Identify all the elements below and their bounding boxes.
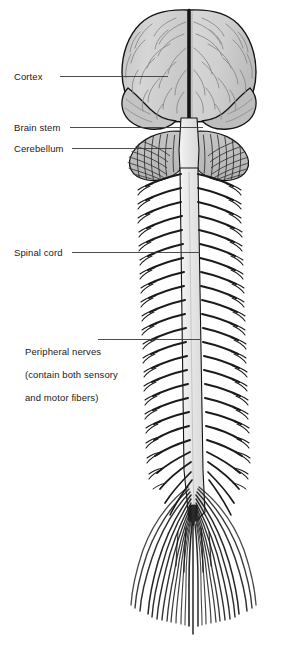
label-spinal-cord: Spinal cord bbox=[14, 247, 63, 259]
label-cortex: Cortex bbox=[14, 71, 43, 83]
label-peripheral-nerves: Peripheral nerves (contain both sensory … bbox=[14, 334, 118, 415]
cauda-equina-left bbox=[131, 487, 192, 626]
spinal-nerve-roots-right bbox=[198, 174, 250, 515]
brainstem-spinalcord-group bbox=[179, 118, 205, 526]
label-peripheral-nerves-line3: and motor fibers) bbox=[25, 392, 99, 403]
brain-stem bbox=[179, 118, 199, 170]
figure-canvas: Cortex Brain stem Cerebellum Spinal cord… bbox=[0, 0, 293, 647]
label-peripheral-nerves-line2: (contain both sensory bbox=[25, 369, 118, 380]
cerebellum-left bbox=[129, 131, 186, 181]
cerebellum-right bbox=[192, 131, 249, 181]
cauda-equina-right bbox=[195, 487, 256, 626]
label-cerebellum: Cerebellum bbox=[14, 143, 64, 155]
cns-anatomy-illustration bbox=[0, 0, 293, 647]
label-peripheral-nerves-line1: Peripheral nerves bbox=[25, 346, 101, 357]
cerebrum-group bbox=[122, 10, 256, 129]
label-brain-stem: Brain stem bbox=[14, 122, 60, 134]
